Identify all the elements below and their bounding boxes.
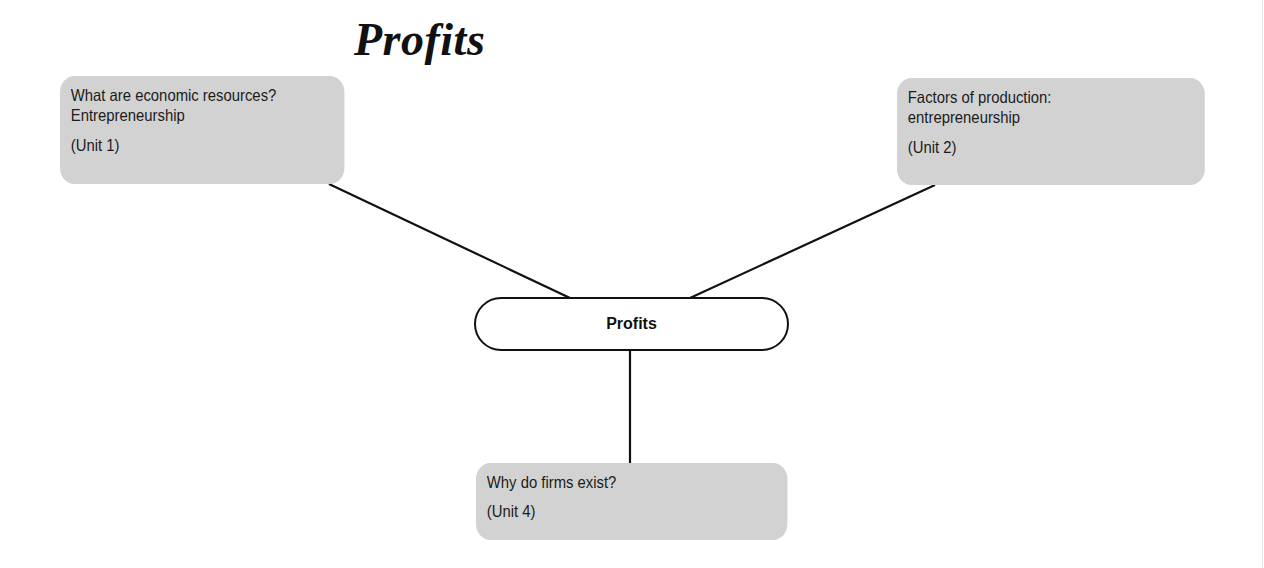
node-economic-resources: What are economic resources? Entrepreneu… [60,76,344,184]
node-unit: (Unit 2) [908,137,1194,157]
node-text: entrepreneurship [908,107,1194,127]
connector-left [329,184,570,298]
node-text: Factors of production: [908,87,1194,107]
node-text: What are economic resources? [71,85,334,105]
node-why-firms-exist: Why do firms exist? (Unit 4) [476,463,787,540]
node-unit: (Unit 4) [487,501,777,521]
page-edge-divider [1262,0,1263,568]
center-node-label: Profits [606,315,657,333]
node-unit: (Unit 1) [71,135,334,155]
node-factors-of-production: Factors of production: entrepreneurship … [897,78,1205,185]
node-text: Entrepreneurship [71,105,334,125]
node-text: Why do firms exist? [487,472,777,492]
connector-right [690,185,935,298]
center-node-profits: Profits [474,297,789,351]
